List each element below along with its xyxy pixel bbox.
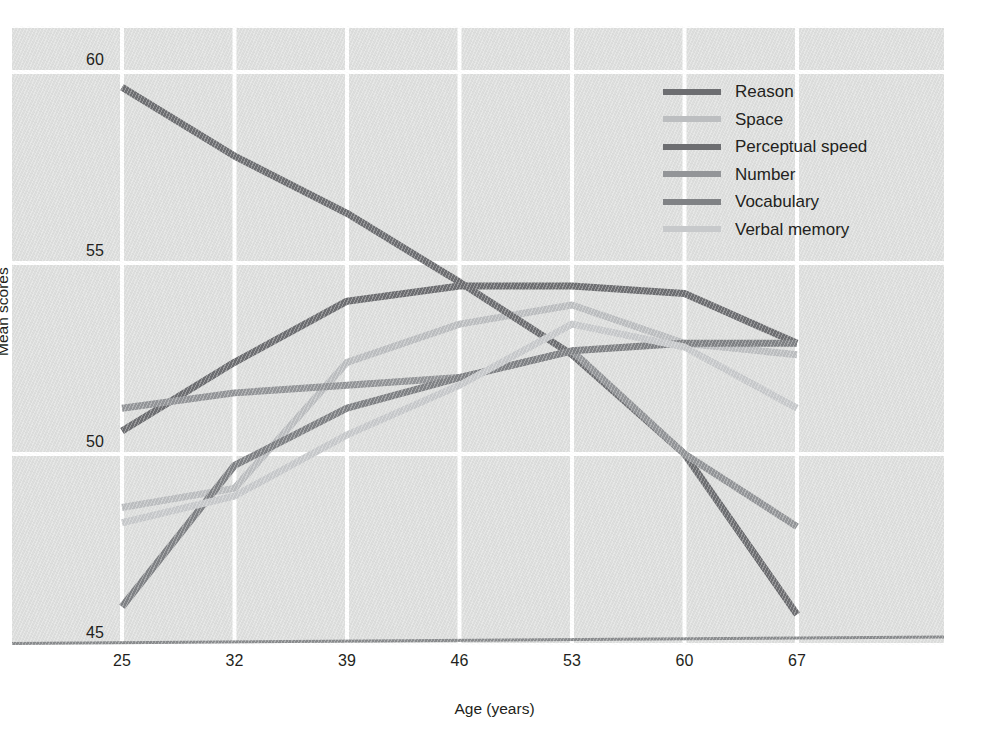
legend-swatch [663,171,721,177]
legend-label: Space [735,111,783,128]
chart-legend: ReasonSpacePerceptual speedNumberVocabul… [663,78,963,243]
y-tick-label: 60 [86,51,104,69]
x-axis-label: Age (years) [0,700,989,718]
legend-swatch [663,226,721,232]
legend-swatch [663,116,721,122]
legend-swatch [663,144,721,150]
legend-label: Perceptual speed [735,138,867,155]
x-tick-label: 53 [552,652,592,670]
x-tick-label: 32 [215,652,255,670]
legend-swatch [663,89,721,95]
y-tick-label: 50 [86,433,104,451]
legend-item: Reason [663,78,963,106]
y-axis-label: Mean scores [0,267,12,356]
x-tick-label: 39 [327,652,367,670]
y-tick-label: 45 [86,624,104,642]
legend-swatch [663,199,721,205]
chart-figure: Mean scores Age (years) 45505560 2532394… [0,0,989,751]
legend-label: Reason [735,83,794,100]
legend-item: Number [663,161,963,189]
legend-label: Vocabulary [735,193,819,210]
x-tick-label: 67 [777,652,817,670]
legend-item: Vocabulary [663,188,963,216]
legend-label: Verbal memory [735,221,849,238]
x-tick-label: 46 [440,652,480,670]
x-tick-label: 60 [665,652,705,670]
x-tick-label: 25 [102,652,142,670]
legend-item: Verbal memory [663,216,963,244]
y-tick-label: 55 [86,242,104,260]
legend-label: Number [735,166,795,183]
legend-item: Perceptual speed [663,133,963,161]
legend-item: Space [663,106,963,134]
